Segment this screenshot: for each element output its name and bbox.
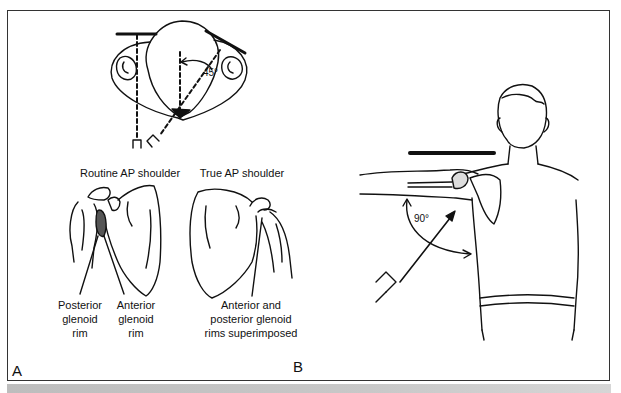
anterior-glenoid-rim-label: Anterior glenoid rim (106, 298, 166, 340)
label-line: Anterior and (195, 298, 307, 312)
label-line: Posterior (50, 298, 110, 312)
angle-90-label: 90° (414, 212, 429, 226)
panel-letter-a: A (12, 362, 22, 379)
routine-ap-shoulder-diagram (70, 186, 161, 296)
rims-superimposed-label: Anterior and posterior glenoid rims supe… (195, 298, 307, 340)
label-line: rim (106, 326, 166, 340)
angle-45-label: 45° (203, 66, 218, 80)
true-ap-title: True AP shoulder (187, 166, 297, 180)
posterior-glenoid-rim-label: Posterior glenoid rim (50, 298, 110, 340)
routine-ap-title: Routine AP shoulder (60, 166, 200, 180)
panel-letter-b: B (293, 358, 303, 375)
label-line: glenoid (106, 312, 166, 326)
axial-view-diagram (111, 21, 247, 148)
label-line: rim (50, 326, 110, 340)
true-ap-shoulder-diagram (190, 189, 292, 298)
label-line: posterior glenoid (195, 312, 307, 326)
standing-patient-diagram (360, 85, 578, 341)
label-line: glenoid (50, 312, 110, 326)
label-line: Anterior (106, 298, 166, 312)
label-line: rims superimposed (195, 326, 307, 340)
